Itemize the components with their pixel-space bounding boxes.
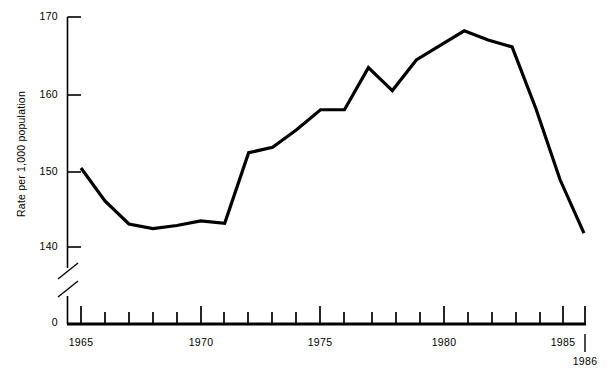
x-tick-label-1970: 1970	[177, 336, 225, 348]
y-tick-label-170: 170	[18, 10, 58, 22]
y-tick-label-0: 0	[18, 316, 58, 328]
chart-figure: 170 160 150 140 0 Rate per 1,000 populat…	[0, 0, 610, 377]
x-tick-label-1985: 1985	[539, 336, 587, 348]
line-chart-plot	[0, 0, 610, 377]
x-tick-label-1965: 1965	[57, 336, 105, 348]
x-tick-label-1975: 1975	[296, 336, 344, 348]
y-axis-title: Rate per 1,000 population	[15, 89, 27, 219]
data-series-line	[81, 31, 584, 233]
x-tick-label-1980: 1980	[420, 336, 468, 348]
y-tick-label-140: 140	[18, 240, 58, 252]
y-axis-break-slash-lower	[58, 281, 78, 297]
x-tick-label-1986: 1986	[561, 355, 609, 367]
